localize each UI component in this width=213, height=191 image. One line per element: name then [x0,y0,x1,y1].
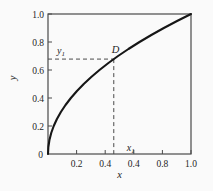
y1-guide-label: y1 [56,45,65,58]
curve-sqrt [48,14,191,154]
origin-label: 0 [38,150,43,160]
y-tick-label: 0.4 [32,94,44,104]
x-tick-label: 1.0 [185,159,197,169]
x-tick-label: 0.8 [156,159,168,169]
y-tick-label: 0.2 [32,122,44,132]
y-axis-title: y [7,75,18,81]
y-tick-label: 0.6 [32,66,44,76]
x-tick-label: 0.4 [99,159,111,169]
y-tick-label: 0.8 [32,38,44,48]
y-tick-label: 1.0 [32,10,44,20]
axes-frame [48,14,191,154]
x-axis-title: x [116,169,122,180]
point-d-label: D [111,44,120,55]
figure-container: 0.20.40.40.81.00.20.40.60.81.00Dy1x1xy [0,0,213,191]
x-tick-label: 0.4 [128,159,140,169]
chart-canvas: 0.20.40.40.81.00.20.40.60.81.00Dy1x1xy [0,0,213,191]
x-tick-label: 0.2 [71,159,83,169]
x1-guide-label: x1 [126,142,135,155]
